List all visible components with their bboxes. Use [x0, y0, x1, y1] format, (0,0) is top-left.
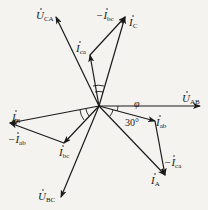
phasor-dots	[0, 0, 208, 210]
phasor-diagram: UCA −Ibc IC Ica UAB IB −Iab Ibc Iab −Ica…	[0, 0, 208, 210]
